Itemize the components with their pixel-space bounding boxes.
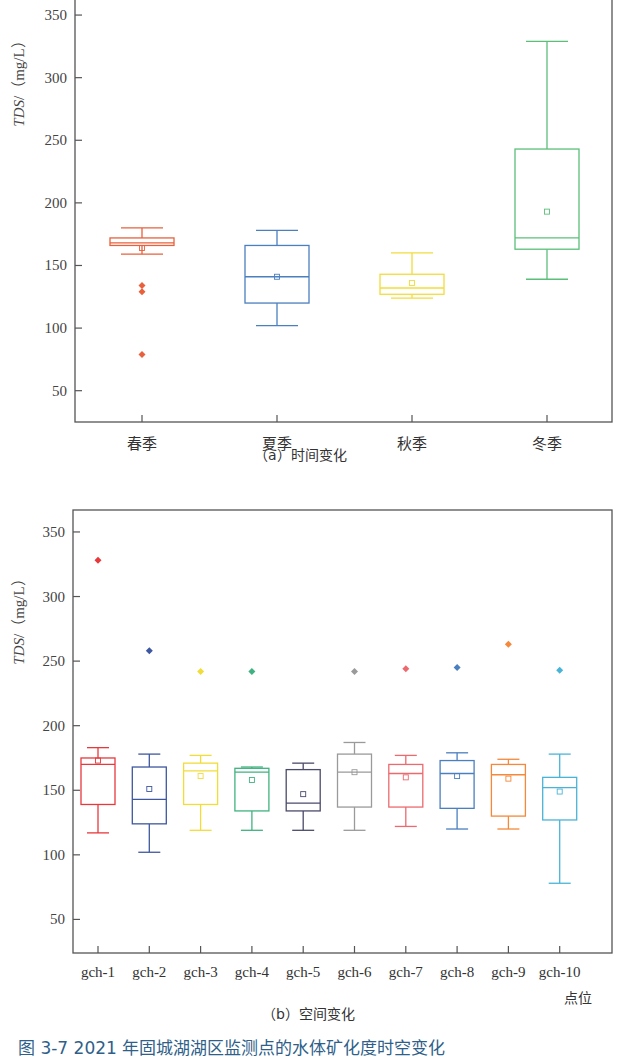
box-gch-3	[184, 668, 218, 830]
box-gch-1	[81, 557, 115, 833]
iqr-box	[132, 767, 166, 824]
box-gch-10	[543, 667, 577, 884]
plot-area: 50100150200250300350TDS/（mg/L）gch-1gch-2…	[11, 510, 612, 980]
x-category-label: gch-1	[81, 964, 115, 980]
x-category-label: gch-5	[286, 964, 320, 980]
box-夏季	[245, 230, 309, 325]
iqr-box	[110, 238, 174, 246]
y-tick-label: 300	[45, 70, 68, 86]
x-category-label: 春季	[127, 436, 157, 452]
x-category-label: 秋季	[397, 436, 427, 452]
y-tick-label: 250	[43, 653, 66, 669]
outlier-point	[505, 641, 512, 648]
iqr-box	[491, 764, 525, 816]
iqr-box	[235, 768, 269, 811]
y-tick-label: 350	[45, 7, 68, 23]
box-gch-5	[286, 763, 320, 830]
sub-caption-a: （a）时间变化	[254, 444, 347, 464]
y-tick-label: 150	[43, 782, 66, 798]
x-category-label: gch-10	[539, 964, 581, 980]
outlier-point	[454, 664, 461, 671]
box-春季	[110, 228, 174, 358]
x-category-label: gch-9	[491, 964, 525, 980]
iqr-box	[515, 149, 579, 249]
iqr-box	[380, 274, 444, 294]
figure-caption: 图 3-7 2021 年固城湖湖区监测点的水体矿化度时空变化	[18, 1034, 445, 1059]
box-秋季	[380, 253, 444, 298]
chart-b-spatial-boxplot: 50100150200250300350TDS/（mg/L）gch-1gch-2…	[0, 490, 619, 1010]
y-tick-label: 300	[43, 589, 66, 605]
y-tick-label: 150	[45, 257, 68, 273]
outlier-point	[139, 351, 146, 358]
y-tick-label: 350	[43, 524, 66, 540]
y-axis-label: TDS/（mg/L）	[11, 33, 27, 126]
iqr-box	[440, 761, 474, 809]
x-category-label: gch-4	[235, 964, 270, 980]
x-axis-title: 点位	[564, 987, 592, 1007]
plot-frame	[73, 510, 612, 953]
y-tick-label: 250	[45, 132, 68, 148]
outlier-point	[197, 668, 204, 675]
outlier-point	[351, 668, 358, 675]
box-gch-9	[491, 641, 525, 829]
outlier-point	[556, 667, 563, 674]
outlier-point	[139, 282, 146, 289]
x-category-label: 冬季	[532, 436, 562, 452]
iqr-box	[286, 770, 320, 811]
chart-a-temporal-boxplot: 50100150200250300350TDS/（mg/L）春季夏季秋季冬季	[0, 0, 619, 470]
x-category-label: gch-7	[389, 964, 424, 980]
iqr-box	[389, 764, 423, 807]
box-gch-8	[440, 664, 474, 829]
box-冬季	[515, 41, 579, 279]
outlier-point	[248, 668, 255, 675]
outlier-point	[146, 647, 153, 654]
y-tick-label: 50	[50, 911, 65, 927]
y-tick-label: 100	[43, 847, 66, 863]
iqr-box	[338, 754, 372, 807]
iqr-box	[543, 777, 577, 820]
x-category-label: gch-8	[440, 964, 474, 980]
iqr-box	[184, 763, 218, 804]
box-gch-7	[389, 665, 423, 826]
y-tick-label: 200	[43, 718, 66, 734]
y-axis-label: TDS/（mg/L）	[11, 571, 27, 664]
box-gch-2	[132, 647, 166, 852]
sub-caption-b: （b）空间变化	[262, 1003, 355, 1023]
x-category-label: gch-2	[132, 964, 166, 980]
outlier-point	[402, 665, 409, 672]
outlier-point	[95, 557, 102, 564]
y-tick-label: 100	[45, 320, 68, 336]
box-gch-6	[338, 668, 372, 830]
x-category-label: gch-6	[337, 964, 372, 980]
x-category-label: gch-3	[184, 964, 218, 980]
plot-area: 50100150200250300350TDS/（mg/L）春季夏季秋季冬季	[11, 0, 612, 452]
y-tick-label: 50	[52, 383, 67, 399]
outlier-point	[139, 288, 146, 295]
box-gch-4	[235, 668, 269, 830]
y-tick-label: 200	[45, 195, 68, 211]
